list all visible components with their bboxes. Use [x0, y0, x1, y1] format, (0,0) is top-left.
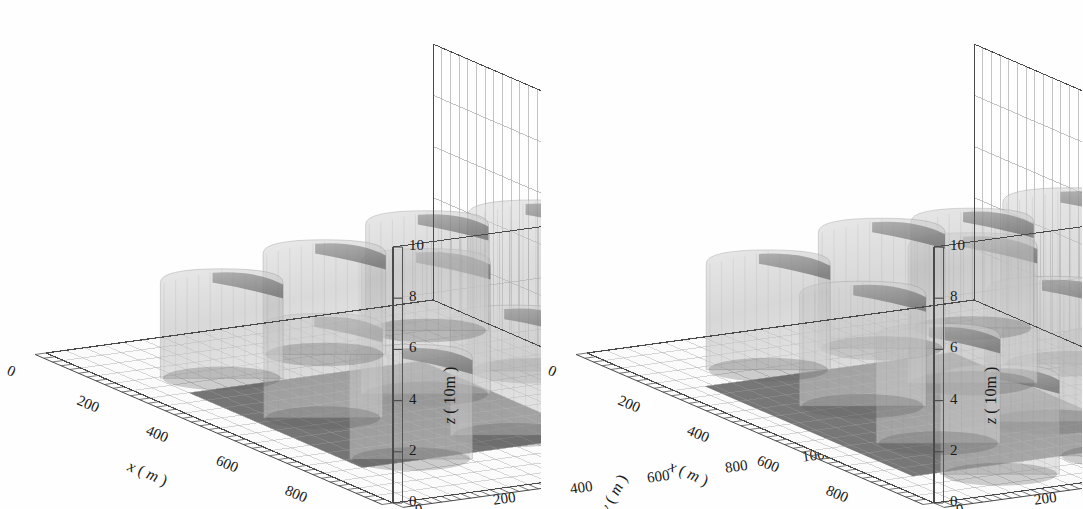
z-tick-label-2: 2	[409, 442, 417, 459]
z-tick-label-10: 10	[409, 237, 424, 254]
plot-panel-right: 0200400600800100002004006008001000024681…	[541, 0, 1082, 509]
z-tick-label-0: 0	[950, 493, 958, 509]
z-tick-label-2: 2	[950, 442, 958, 459]
figure-canvas: 0200400600800100002004006008001000024681…	[0, 0, 1083, 509]
z-tick-label-0: 0	[409, 493, 417, 509]
y-tick-label-200: 200	[492, 489, 517, 509]
z-tick-label-6: 6	[409, 339, 417, 356]
z-tick-label-4: 4	[950, 391, 958, 408]
z-axis-title: z ( 10m )	[982, 366, 1000, 423]
y-tick-label-200: 200	[1033, 489, 1058, 509]
z-tick-label-6: 6	[950, 339, 958, 356]
plot-panel-left: 0200400600800100002004006008001000024681…	[0, 0, 541, 509]
z-axis-title: z ( 10m )	[441, 366, 459, 423]
z-tick-label-8: 8	[409, 288, 417, 305]
isosurface-group	[160, 200, 541, 471]
isosurface-plume	[706, 250, 830, 382]
z-tick-label-8: 8	[950, 288, 958, 305]
isosurface-group	[706, 188, 1082, 486]
z-tick-label-10: 10	[950, 237, 965, 254]
z-tick-label-4: 4	[409, 391, 417, 408]
